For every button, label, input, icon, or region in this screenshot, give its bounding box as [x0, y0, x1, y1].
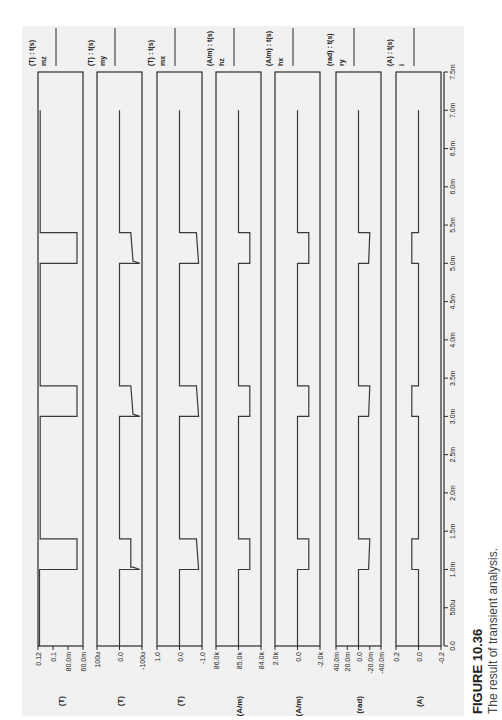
panel-signal-name: mz — [40, 56, 47, 66]
y-tick-label: 20.0m — [344, 652, 351, 672]
x-tick-label: 4.5m — [449, 294, 456, 310]
panel-header-unit: (T) : t(s) — [87, 40, 95, 66]
panel-header-unit: (T) : t(s) — [147, 40, 155, 66]
y-tick-label: 2.0k — [272, 652, 279, 666]
y-tick-label: -20.0m — [367, 652, 374, 674]
figure-label: FIGURE 10.36 — [470, 629, 485, 714]
y-tick-label: 0.1 — [50, 652, 57, 662]
y-unit-label: (rad) — [355, 696, 364, 714]
panel-header-unit: (A/m) : t(s) — [206, 31, 214, 66]
panel-mz: (T) : t(s)mz0.120.180.0m60.0m(T) — [28, 28, 87, 706]
panel-my: (T) : t(s)my100u0.0-100u(T) — [87, 28, 146, 706]
panel-header-unit: (rad) : t(s) — [326, 33, 334, 66]
signal-panels: (T) : t(s)mz0.120.180.0m60.0m(T)(T) : t(… — [28, 28, 445, 716]
figure-caption-text: The result of transient analysis. — [486, 548, 500, 714]
y-unit-label: (A) — [415, 696, 424, 707]
x-tick-label: 3.5m — [449, 370, 456, 386]
x-tick-label: 6.0m — [449, 179, 456, 195]
y-tick-label: -0.2 — [438, 652, 445, 664]
panel-mx: (T) : t(s)mx1.00.0-1.0(T) — [147, 28, 206, 706]
trace-mz — [40, 110, 78, 646]
y-tick-label: -2.0k — [317, 652, 324, 668]
panel-i: (A) : t(s)i0.20.0-0.2(A) — [386, 28, 445, 707]
trace-i — [412, 110, 419, 646]
y-tick-label: -40.0m — [378, 652, 385, 674]
panel-ry: (rad) : t(s)ry40.0m20.0m0.0-20.0m-40.0m(… — [326, 28, 385, 714]
y-unit-label: (A/m) — [235, 696, 244, 717]
time-axis: 0.0500u1.0m1.5m2.0m2.5m3.0m3.5m4.0m4.5m5… — [444, 64, 456, 651]
x-tick-label: 4.0m — [449, 332, 456, 348]
x-tick-label: 500u — [449, 600, 456, 616]
y-tick-label: 85.0k — [236, 652, 243, 670]
y-tick-label: -100u — [139, 652, 146, 670]
transient-analysis-chart: (T) : t(s)mz0.120.180.0m60.0m(T)(T) : t(… — [0, 0, 502, 720]
y-tick-label: 80.0m — [65, 652, 72, 672]
y-tick-label: 100u — [94, 652, 101, 668]
x-tick-label: 1.0m — [449, 562, 456, 578]
y-tick-label: 0.12 — [35, 652, 42, 666]
y-unit-label: (T) — [176, 696, 185, 707]
x-tick-label: 5.5m — [449, 217, 456, 233]
x-tick-label: 2.5m — [449, 447, 456, 463]
y-tick-label: 0.0 — [117, 652, 124, 662]
trace-hz — [239, 110, 250, 646]
y-tick-label: 84.0k — [258, 652, 265, 670]
panel-hz: (A/m) : t(s)hz86.0k85.0k84.0k(A/m) — [206, 28, 265, 716]
panel-header-unit: (T) : t(s) — [28, 40, 36, 66]
y-tick-label: -1.0 — [199, 652, 206, 664]
trace-my — [120, 110, 140, 646]
panel-signal-name: my — [99, 56, 107, 66]
panel-signal-name: ry — [338, 59, 346, 66]
x-tick-label: 7.0m — [449, 102, 456, 118]
y-unit-label: (T) — [116, 696, 125, 707]
trace-mx — [180, 110, 199, 646]
trace-ry — [359, 110, 370, 646]
x-tick-label: 2.0m — [449, 485, 456, 501]
y-tick-label: 60.0m — [80, 652, 87, 672]
y-unit-label: (A/m) — [294, 696, 303, 717]
x-tick-label: 3.0m — [449, 408, 456, 424]
y-tick-label: 40.0m — [333, 652, 340, 672]
y-tick-label: 86.0k — [213, 652, 220, 670]
y-unit-label: (T) — [57, 696, 66, 707]
y-tick-label: 0.0 — [295, 652, 302, 662]
panel-hx: (A/m) : t(s)hx2.0k0.0-2.0k(A/m) — [265, 28, 324, 716]
panel-header-unit: (A/m) : t(s) — [265, 31, 273, 66]
y-tick-label: 0.2 — [393, 652, 400, 662]
panel-signal-name: mx — [159, 56, 166, 66]
x-tick-label: 0.0 — [449, 641, 456, 651]
figure-caption: FIGURE 10.36 The result of transient ana… — [470, 548, 500, 714]
y-tick-label: 1.0 — [154, 652, 161, 662]
figure: (T) : t(s)mz0.120.180.0m60.0m(T)(T) : t(… — [0, 0, 502, 720]
panel-frame — [38, 72, 83, 646]
y-tick-label: 0.0 — [177, 652, 184, 662]
trace-hx — [298, 110, 309, 646]
panel-header-unit: (A) : t(s) — [386, 39, 394, 66]
panel-signal-name: hx — [277, 58, 284, 66]
y-tick-label: 0.0 — [356, 652, 363, 662]
panel-signal-name: hz — [218, 58, 225, 66]
x-tick-label: 5.0m — [449, 255, 456, 271]
x-tick-label: 7.5m — [449, 64, 456, 80]
x-tick-label: 6.5m — [449, 141, 456, 157]
panel-signal-name: i — [398, 64, 405, 66]
y-tick-label: 0.0 — [416, 652, 423, 662]
x-tick-label: 1.5m — [449, 523, 456, 539]
